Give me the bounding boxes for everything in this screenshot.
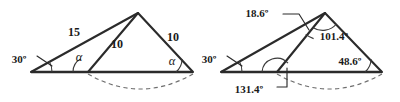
right-side-cevian — [277, 13, 325, 72]
right-side-long — [221, 13, 325, 72]
left-dashed-arc — [88, 74, 193, 89]
left-label-angle-alpha-middle: α — [76, 50, 83, 64]
left-label-angle-30: 30º — [12, 53, 27, 65]
left-angle-arc-30 — [49, 61, 52, 72]
right-angle-arc-30 — [239, 61, 242, 72]
right-label-angle-101-4: 101.4º — [320, 30, 349, 42]
right-angle-arc-131-4 — [262, 58, 288, 72]
left-label-angle-alpha-right: α — [169, 54, 176, 68]
right-label-angle-48-6: 48.6º — [339, 55, 362, 67]
left-label-side-15: 15 — [68, 25, 80, 39]
triangle-diagram-svg: 15 10 10 30º α α — [0, 0, 400, 102]
right-leader-18-6 — [283, 14, 309, 30]
left-diagram-group: 15 10 10 30º α α — [12, 13, 193, 89]
right-dashed-arc — [277, 74, 382, 89]
left-label-side-10-left: 10 — [111, 37, 123, 51]
right-label-angle-30: 30º — [202, 53, 217, 65]
geometry-figure-canvas: 15 10 10 30º α α — [0, 0, 400, 102]
right-label-angle-131-4: 131.4º — [235, 83, 264, 95]
left-angle-arc-alpha-right — [176, 59, 182, 72]
right-label-angle-18-6: 18.6º — [246, 7, 269, 19]
left-label-side-10-right: 10 — [167, 30, 179, 44]
left-side-10-right — [138, 13, 193, 72]
right-diagram-group: 18.6º 101.4º 30º 48.6º 131.4º — [202, 7, 382, 95]
